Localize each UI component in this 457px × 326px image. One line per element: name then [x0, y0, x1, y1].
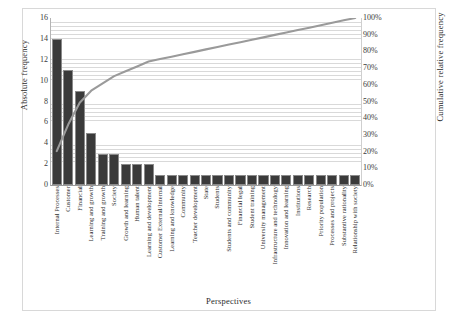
- bar: [304, 175, 314, 185]
- bar: [316, 175, 326, 185]
- x-axis-tick-label: Infrastructure and technology: [268, 186, 279, 291]
- bar-slot: [258, 18, 269, 185]
- x-axis-tick-label: State: [199, 186, 210, 291]
- x-axis-tick-label-text: Research: [305, 186, 312, 210]
- bar-slot: [154, 18, 165, 185]
- x-axis-tick-label: Processes and projects: [326, 186, 337, 291]
- x-axis-tick-label-text: Infrastructure and technology: [270, 186, 277, 265]
- bar: [178, 175, 188, 185]
- x-axis-tick-label-text: Community: [179, 186, 186, 217]
- bar: [63, 70, 73, 185]
- y-axis-right-tick-label: 50%: [363, 98, 393, 106]
- y-axis-right-tick-label: 100%: [363, 14, 393, 22]
- bar-slot: [292, 18, 303, 185]
- x-axis-tick-label: Society: [107, 186, 118, 291]
- y-axis-right-tick-label: 30%: [363, 131, 393, 139]
- y-axis-left-tick-label: 0: [26, 181, 48, 189]
- bar-series: [51, 18, 361, 185]
- x-axis-tick-label-text: Teacher development: [190, 186, 197, 243]
- y-axis-left-ticks: 0246810121416: [24, 0, 48, 326]
- bar-slot: [62, 18, 73, 185]
- bar-slot: [212, 18, 223, 185]
- x-axis-tick-label-text: University management: [259, 186, 266, 249]
- bar-slot: [177, 18, 188, 185]
- x-axis-tick-label-text: Relationship with society: [351, 186, 358, 253]
- x-axis-tick-label-text: Training and growth: [98, 186, 105, 240]
- x-axis-tick-label-text: Human talent: [133, 186, 140, 222]
- bar: [52, 39, 62, 185]
- bar: [327, 175, 337, 185]
- x-axis-tick-label: Human talent: [130, 186, 141, 291]
- x-axis-tick-label-text: Innovation and learning: [282, 186, 289, 249]
- bar: [281, 175, 291, 185]
- y-axis-right-tick-label: 20%: [363, 148, 393, 156]
- bar: [293, 175, 303, 185]
- y-axis-left-tick-label: 4: [26, 139, 48, 147]
- bar-slot: [200, 18, 211, 185]
- bar: [167, 175, 177, 185]
- x-axis-tick-label: Substantive rationality: [337, 186, 348, 291]
- x-axis-tick-label: Customer External/Internal: [153, 186, 164, 291]
- x-axis-tick-label: Learning and growth: [84, 186, 95, 291]
- y-axis-right-tick-label: 0%: [363, 181, 393, 189]
- bar: [350, 175, 360, 185]
- y-axis-right-tick-label: 10%: [363, 164, 393, 172]
- bar-slot: [327, 18, 338, 185]
- x-axis-tick-label: Teacher development: [188, 186, 199, 291]
- y-axis-right-title: Cumulative relative frequency: [435, 0, 445, 137]
- y-axis-right-tick-label: 80%: [363, 47, 393, 55]
- bar-slot: [235, 18, 246, 185]
- y-axis-left-tick-label: 10: [26, 77, 48, 85]
- x-axis-tick-label: Financial legal: [234, 186, 245, 291]
- y-axis-right-tick-label: 90%: [363, 31, 393, 39]
- x-axis-tick-label: Training and growth: [96, 186, 107, 291]
- x-axis-tick-label: Institutions: [291, 186, 302, 291]
- x-axis-tick-label-text: Processes and projects: [328, 186, 335, 246]
- bar: [247, 175, 257, 185]
- x-axis-tick-label: Students: [211, 186, 222, 291]
- x-axis-tick-label-text: Institutions: [293, 186, 300, 216]
- bar: [109, 154, 119, 185]
- bar: [155, 175, 165, 185]
- bar-slot: [269, 18, 280, 185]
- bar: [270, 175, 280, 185]
- bar-slot: [143, 18, 154, 185]
- x-axis-tick-label-text: State: [201, 186, 208, 199]
- x-axis-tick-labels: Internal ProcessesCustomerFinancialLearn…: [50, 186, 360, 291]
- bar-slot: [108, 18, 119, 185]
- bar: [224, 175, 234, 185]
- x-axis-tick-label-text: Learning and development: [144, 186, 151, 257]
- bar-slot: [131, 18, 142, 185]
- y-axis-right-tick-label: 70%: [363, 64, 393, 72]
- x-axis-tick-label-text: Internal Processes: [52, 186, 59, 234]
- pareto-chart-figure: Absolute frequency Cumulative relative f…: [0, 0, 457, 326]
- bar: [86, 133, 96, 185]
- x-axis-tick-label: Financial: [73, 186, 84, 291]
- bar-slot: [338, 18, 349, 185]
- y-axis-right-tick-label: 40%: [363, 114, 393, 122]
- x-axis-tick-label: Internal Processes: [50, 186, 61, 291]
- bar-slot: [74, 18, 85, 185]
- x-axis-tick-label-text: Learning and growth: [87, 186, 94, 242]
- bar-slot: [246, 18, 257, 185]
- y-axis-right-tick-label: 60%: [363, 81, 393, 89]
- x-axis-tick-label: Priority population: [314, 186, 325, 291]
- bar: [190, 175, 200, 185]
- bar: [132, 164, 142, 185]
- x-axis-tick-label: Innovation and learning: [280, 186, 291, 291]
- x-axis-tick-label: Relationship with society: [349, 186, 360, 291]
- x-axis-tick-label-text: Customer External/Internal: [156, 186, 163, 258]
- x-axis-tick-label: Students and community: [222, 186, 233, 291]
- y-axis-left-tick-label: 8: [26, 98, 48, 106]
- x-axis-tick-label: Community: [176, 186, 187, 291]
- bar-slot: [166, 18, 177, 185]
- bar-slot: [120, 18, 131, 185]
- bar: [258, 175, 268, 185]
- x-axis-tick-label-text: Learning and knowledge: [167, 186, 174, 252]
- bar-slot: [51, 18, 62, 185]
- x-axis-tick-label-text: Financial: [75, 186, 82, 211]
- x-axis-tick-label-text: Student training: [247, 186, 254, 229]
- x-axis-tick-label-text: Substantive rationality: [339, 186, 346, 246]
- x-axis-tick-label: University management: [257, 186, 268, 291]
- plot-area: [50, 18, 362, 186]
